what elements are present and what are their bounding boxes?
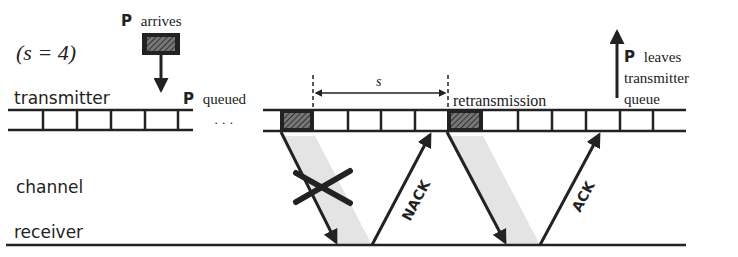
queued-label: P queued	[183, 90, 247, 108]
row-label-transmitter: transmitter	[14, 88, 110, 108]
parameter-label: (s = 4)	[16, 40, 76, 65]
interval-label: s	[376, 74, 382, 89]
retransmission-label: retransmission	[453, 92, 546, 109]
packet-retransmission	[447, 109, 483, 132]
packet-arriving	[142, 33, 180, 55]
transmitter-queue-left	[8, 110, 193, 130]
packet-first-transmission	[280, 109, 314, 132]
row-label-channel: channel	[16, 177, 83, 197]
ellipsis: · · ·	[214, 115, 234, 130]
leaves-label-line2: transmitter	[624, 70, 689, 86]
arrives-label: P arrives	[121, 12, 182, 30]
leaves-label: P leaves	[624, 48, 681, 66]
leaves-label-line3: queue	[624, 91, 660, 107]
arq-diagram: (s = 4) P arrives transmitter P queued ·…	[0, 0, 738, 257]
row-label-receiver: receiver	[14, 222, 83, 242]
